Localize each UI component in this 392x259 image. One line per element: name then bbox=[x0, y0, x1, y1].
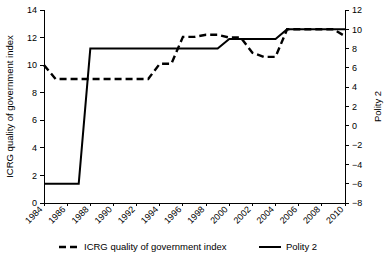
right-tick-label: 6 bbox=[352, 63, 357, 73]
left-tick-label: 4 bbox=[32, 143, 37, 153]
left-tick-label: 10 bbox=[27, 60, 37, 70]
left-axis: 02468101214ICRG quality of government in… bbox=[4, 5, 44, 208]
x-tick-label: 1998 bbox=[185, 204, 206, 225]
right-tick-label: 2 bbox=[352, 102, 357, 112]
x-tick-label: 1996 bbox=[162, 204, 183, 225]
right-axis-title: Polity 2 bbox=[372, 91, 383, 122]
x-tick-label: 1986 bbox=[46, 204, 67, 225]
line-chart: 02468101214ICRG quality of government in… bbox=[0, 0, 392, 259]
x-tick-label: 1984 bbox=[23, 204, 44, 225]
x-tick-label: 2004 bbox=[255, 204, 276, 225]
left-tick-label: 12 bbox=[27, 33, 37, 43]
right-tick-label: 4 bbox=[352, 82, 357, 92]
left-tick-label: 14 bbox=[27, 5, 37, 15]
left-tick-label: 2 bbox=[32, 171, 37, 181]
right-tick-label: 10 bbox=[352, 25, 362, 35]
x-tick-label: 1988 bbox=[69, 204, 90, 225]
x-tick-label: 1994 bbox=[139, 204, 160, 225]
x-tick-label: 1992 bbox=[116, 204, 137, 225]
x-tick-label: 2002 bbox=[232, 204, 253, 225]
right-tick-label: 8 bbox=[352, 44, 357, 54]
legend-label-icrg: ICRG quality of government index bbox=[84, 241, 227, 252]
left-axis-title: ICRG quality of government index bbox=[4, 35, 15, 178]
x-tick-label: 2010 bbox=[324, 204, 345, 225]
right-tick-label: 12 bbox=[352, 5, 362, 15]
right-tick-label: −8 bbox=[352, 198, 362, 208]
x-tick-label: 2008 bbox=[301, 204, 322, 225]
left-tick-label: 8 bbox=[32, 88, 37, 98]
x-tick-label: 1990 bbox=[93, 204, 114, 225]
series-line-polity bbox=[44, 29, 345, 183]
series-lines bbox=[44, 29, 345, 183]
x-tick-label: 2006 bbox=[278, 204, 299, 225]
right-tick-label: −6 bbox=[352, 179, 362, 189]
right-axis: −8−6−4−2024681012Polity 2 bbox=[345, 5, 383, 208]
x-axis: 1984198619881990199219941996199820002002… bbox=[23, 203, 345, 226]
legend-label-polity: Polity 2 bbox=[286, 241, 317, 252]
x-tick-label: 2000 bbox=[208, 204, 229, 225]
chart-legend: ICRG quality of government indexPolity 2 bbox=[59, 241, 317, 252]
right-tick-label: −2 bbox=[352, 140, 362, 150]
right-tick-label: 0 bbox=[352, 121, 357, 131]
right-tick-label: −4 bbox=[352, 160, 362, 170]
chart-figure: 02468101214ICRG quality of government in… bbox=[0, 0, 392, 259]
left-tick-label: 6 bbox=[32, 115, 37, 125]
